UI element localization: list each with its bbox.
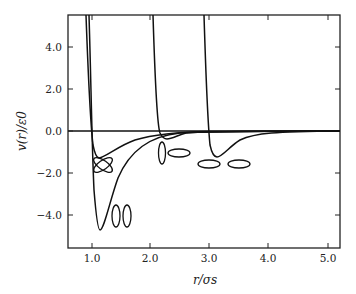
x-axis-label: r/σs: [193, 273, 217, 287]
svg-text:0.0: 0.0: [45, 125, 62, 137]
curve-parallel: [89, 15, 340, 230]
svg-text:2.0: 2.0: [142, 252, 159, 264]
curves: [86, 15, 340, 230]
svg-text:3.0: 3.0: [201, 252, 218, 264]
svg-text:1.0: 1.0: [84, 252, 101, 264]
chart: 4.0 2.0 0.0 −2.0 −4.0 1.0 2.0 3.0 4.0 5.…: [0, 0, 356, 294]
parallel-ellipses-glyph: [112, 205, 131, 227]
x-tick-labels: 1.0 2.0 3.0 4.0 5.0: [84, 252, 337, 264]
svg-text:2.0: 2.0: [45, 83, 62, 95]
crossed-ellipses-glyph: [91, 155, 114, 175]
y-axis-label: v(r)/ε0: [15, 111, 29, 151]
end-to-end-ellipses-glyph: [198, 160, 250, 168]
curve-end-to-end: [204, 15, 340, 157]
svg-text:−2.0: −2.0: [37, 167, 63, 179]
svg-text:5.0: 5.0: [320, 252, 337, 264]
svg-text:−4.0: −4.0: [37, 209, 63, 221]
curve-crossed: [86, 15, 340, 158]
svg-text:4.0: 4.0: [260, 252, 277, 264]
y-tick-labels: 4.0 2.0 0.0 −2.0 −4.0: [37, 41, 63, 221]
curve-t-shape: [153, 15, 340, 139]
t-shape-ellipses-glyph: [159, 142, 191, 164]
svg-text:4.0: 4.0: [45, 41, 62, 53]
